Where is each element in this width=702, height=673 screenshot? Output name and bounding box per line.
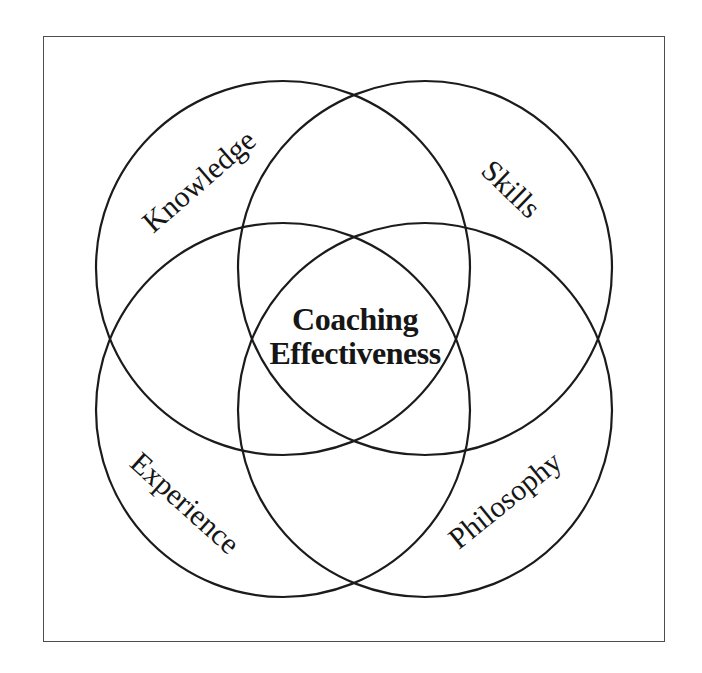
- circle-skills: [238, 81, 612, 455]
- circle-knowledge: [96, 81, 470, 455]
- center-label: Coaching Effectiveness: [269, 302, 440, 370]
- venn-diagram-figure: Knowledge Skills Experience Philosophy C…: [0, 0, 702, 673]
- circle-experience: [96, 223, 470, 597]
- circle-philosophy: [238, 223, 612, 597]
- center-label-line1: Coaching: [269, 302, 440, 336]
- center-label-line2: Effectiveness: [269, 336, 440, 370]
